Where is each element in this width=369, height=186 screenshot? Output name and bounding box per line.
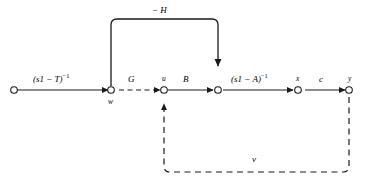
node-source[interactable] — [11, 87, 18, 94]
edge-label-resolvent-a: (s1 − A)−1 — [231, 73, 268, 84]
edge-label-resolvent-t: (s1 − T)−1 — [33, 73, 70, 84]
edge-label-g: G — [128, 75, 135, 84]
node-x[interactable] — [295, 87, 302, 94]
node-label-x: x — [296, 75, 299, 83]
feedback-path-bottom — [164, 97, 349, 172]
node-label-u: u — [162, 75, 166, 83]
node-y[interactable] — [346, 87, 353, 94]
node-label-y: y — [348, 75, 351, 83]
node-sum[interactable] — [215, 87, 222, 94]
edge-label-b: B — [183, 75, 189, 84]
edge-label-feedback-top: − H — [152, 6, 167, 15]
edge-label-feedback-bottom: v — [252, 155, 256, 164]
flow-graph-canvas — [0, 0, 369, 186]
node-w[interactable] — [108, 87, 115, 94]
signal-flow-diagram: (s1 − T)−1 G B (s1 − A)−1 c − H v w u x … — [0, 0, 369, 186]
node-label-w: w — [108, 98, 113, 106]
edge-label-c: c — [319, 75, 323, 84]
node-u[interactable] — [161, 87, 168, 94]
